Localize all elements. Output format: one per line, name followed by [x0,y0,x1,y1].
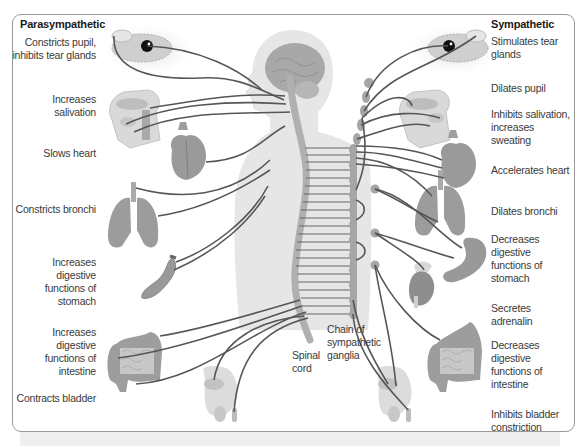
left-bladder-reproductive [203,366,237,422]
para-label-eye: Constricts pupil, inhibits tear glands [6,36,96,62]
symp-label-bladder: Inhibits bladder constriction [491,408,571,434]
symp-label-bronchi: Dilates bronchi [491,205,575,218]
symp-label-stomach: Decreases digestive functions of stomach [491,233,551,285]
left-intestine [108,332,162,392]
left-stomach [142,256,176,298]
symp-label-adrenalin: Secretes adrenalin [491,302,551,328]
para-label-intestine: Increases digestive functions of intesti… [36,326,96,378]
sympathetic-header: Sympathetic [491,18,554,30]
right-intestine [428,322,482,392]
symp-label-intestine: Decreases digestive functions of intesti… [491,339,551,391]
ganglia-chain-label: Chain of sympathetic ganglia [327,323,377,362]
symp-label-tear-glands: Stimulates tear glands [491,35,561,61]
symp-label-pupil: Dilates pupil [491,82,571,95]
symp-label-salivation: Inhibits salivation, increases sweating [491,108,575,147]
right-stomach [443,238,486,283]
left-salivary-head [110,90,160,148]
para-label-stomach: Increases digestive functions of stomach [36,256,96,308]
right-salivary-head [400,90,450,148]
right-adrenal-kidney [409,262,434,309]
spinal-cord-label: Spinal cord [292,349,328,375]
symp-label-heart: Accelerates heart [491,164,575,177]
para-label-heart: Slows heart [6,147,96,160]
para-label-bronchi: Constricts bronchi [0,203,96,216]
para-label-salivation: Increases salivation [26,93,96,119]
left-heart [171,122,206,180]
parasympathetic-header: Parasympathetic [20,18,105,30]
para-label-bladder: Contracts bladder [0,392,96,405]
